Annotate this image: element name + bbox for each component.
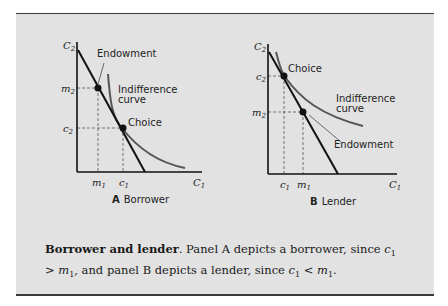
panel-a-endowment-point [95, 85, 102, 92]
panel-a-xtick-m1: m1 [92, 177, 106, 190]
panel-a-x-axis-label: C1 [193, 177, 205, 190]
panel-b-title: BLender [310, 196, 357, 207]
caption-c1-sub: 1 [391, 249, 396, 258]
panel-b-endowment-point [300, 109, 307, 116]
panel-b-choice-label: Choice [288, 63, 322, 74]
panel-a-y-axis-label: C2 [63, 40, 76, 53]
panel-b-indifference-label-2: curve [336, 103, 364, 114]
caption-m1b: m [317, 263, 328, 277]
panel-b-endowment-label: Endowment [334, 139, 394, 150]
figure-caption: Borrower and lender. Panel A depicts a b… [45, 241, 405, 284]
caption-text-2: , and panel B depicts a lender, since [74, 263, 288, 277]
panel-b-guides [268, 76, 303, 174]
panel-b-lender: C2 C1 c2 m2 c1 m1 Choice Indifference cu… [252, 41, 401, 207]
panel-a-choice-point [120, 125, 127, 132]
caption-gt: > [45, 263, 58, 277]
panel-a-title: ABorrower [112, 194, 170, 205]
caption-text-3: . [333, 263, 337, 277]
panel-b-x-axis-label: C1 [389, 179, 401, 192]
panel-b-xtick-c1: c1 [280, 179, 290, 192]
panel-b-choice-point [281, 73, 288, 80]
panel-b-ytick-m2: m2 [252, 107, 266, 120]
caption-text-1: . Panel A depicts a borrower, since [179, 242, 385, 256]
panel-a-axes [77, 42, 202, 172]
panel-b-endowment-leader [309, 115, 341, 142]
panel-a-endowment-label: Endowment [97, 48, 157, 59]
panel-a-indifference-label-2: curve [118, 94, 146, 105]
caption-title: Borrower and lender [45, 242, 179, 256]
panel-a-choice-label: Choice [128, 117, 162, 128]
panel-a-budget-line [78, 50, 145, 172]
caption-lt: < [300, 263, 317, 277]
panel-a-ytick-m2: m2 [61, 83, 75, 96]
caption-m1: m [58, 263, 69, 277]
panel-a-borrower: C2 C1 m2 c2 m1 c1 Endowment Indifference… [61, 40, 205, 205]
panel-a-endowment-leader [98, 63, 104, 84]
panel-b-ytick-c2: c2 [256, 71, 267, 84]
panel-b-xtick-m1: m1 [297, 179, 311, 192]
panel-a-guides [77, 88, 123, 172]
panel-b-y-axis-label: C2 [254, 41, 267, 54]
panel-a-xtick-c1: c1 [119, 177, 129, 190]
panel-a-ytick-c2: c2 [63, 123, 74, 136]
